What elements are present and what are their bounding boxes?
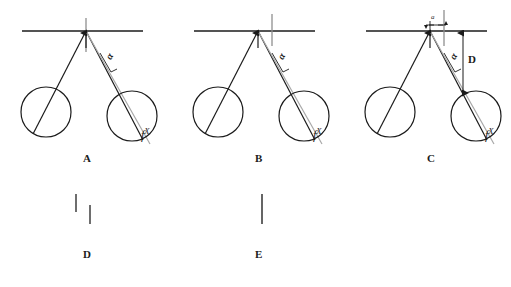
panel-b-drawing	[193, 14, 329, 144]
panel-label-c: C	[427, 152, 435, 164]
figure-root: A B C D E α α α fX fX fX D a	[0, 0, 511, 287]
panel-c-drawing	[365, 10, 501, 144]
panel-b-left-bob	[193, 87, 243, 137]
panel-d-drawing	[76, 194, 90, 224]
panel-a-fx-label: fX	[141, 126, 150, 143]
panel-c-d-dimension-label: D	[468, 53, 476, 65]
panel-a-fx-superscript: X	[144, 126, 149, 136]
panel-label-b: B	[255, 152, 263, 164]
panel-label-e: E	[255, 248, 263, 260]
panel-a-left-string	[33, 31, 86, 134]
panel-b-left-string	[205, 31, 258, 134]
panel-label-d: D	[83, 248, 91, 260]
panel-c-fx-label: fX	[485, 126, 494, 143]
panel-a-drawing	[21, 18, 157, 144]
pendulum-figure-svg	[0, 0, 511, 287]
panel-c-fx-superscript: X	[488, 126, 493, 136]
panel-c-a-dimension-label: a	[431, 13, 435, 21]
panel-b-fx-label: fX	[313, 126, 322, 143]
panel-c-left-bob	[365, 87, 415, 137]
panel-c-left-string	[377, 31, 430, 134]
panel-label-a: A	[83, 152, 91, 164]
panel-b-fx-superscript: X	[316, 126, 321, 136]
panel-a-left-bob	[21, 87, 71, 137]
